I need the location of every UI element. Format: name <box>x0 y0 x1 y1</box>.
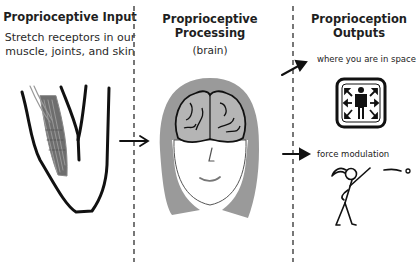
arrow-to-space-output <box>282 61 306 75</box>
arrow-to-force-output <box>283 149 309 159</box>
diagram-canvas <box>0 0 418 273</box>
stick-figure-throwing-icon <box>332 168 410 225</box>
body-awareness-icon <box>337 79 385 127</box>
head-with-brain-illustration <box>160 78 259 218</box>
muscle-limb-illustration <box>22 86 109 212</box>
